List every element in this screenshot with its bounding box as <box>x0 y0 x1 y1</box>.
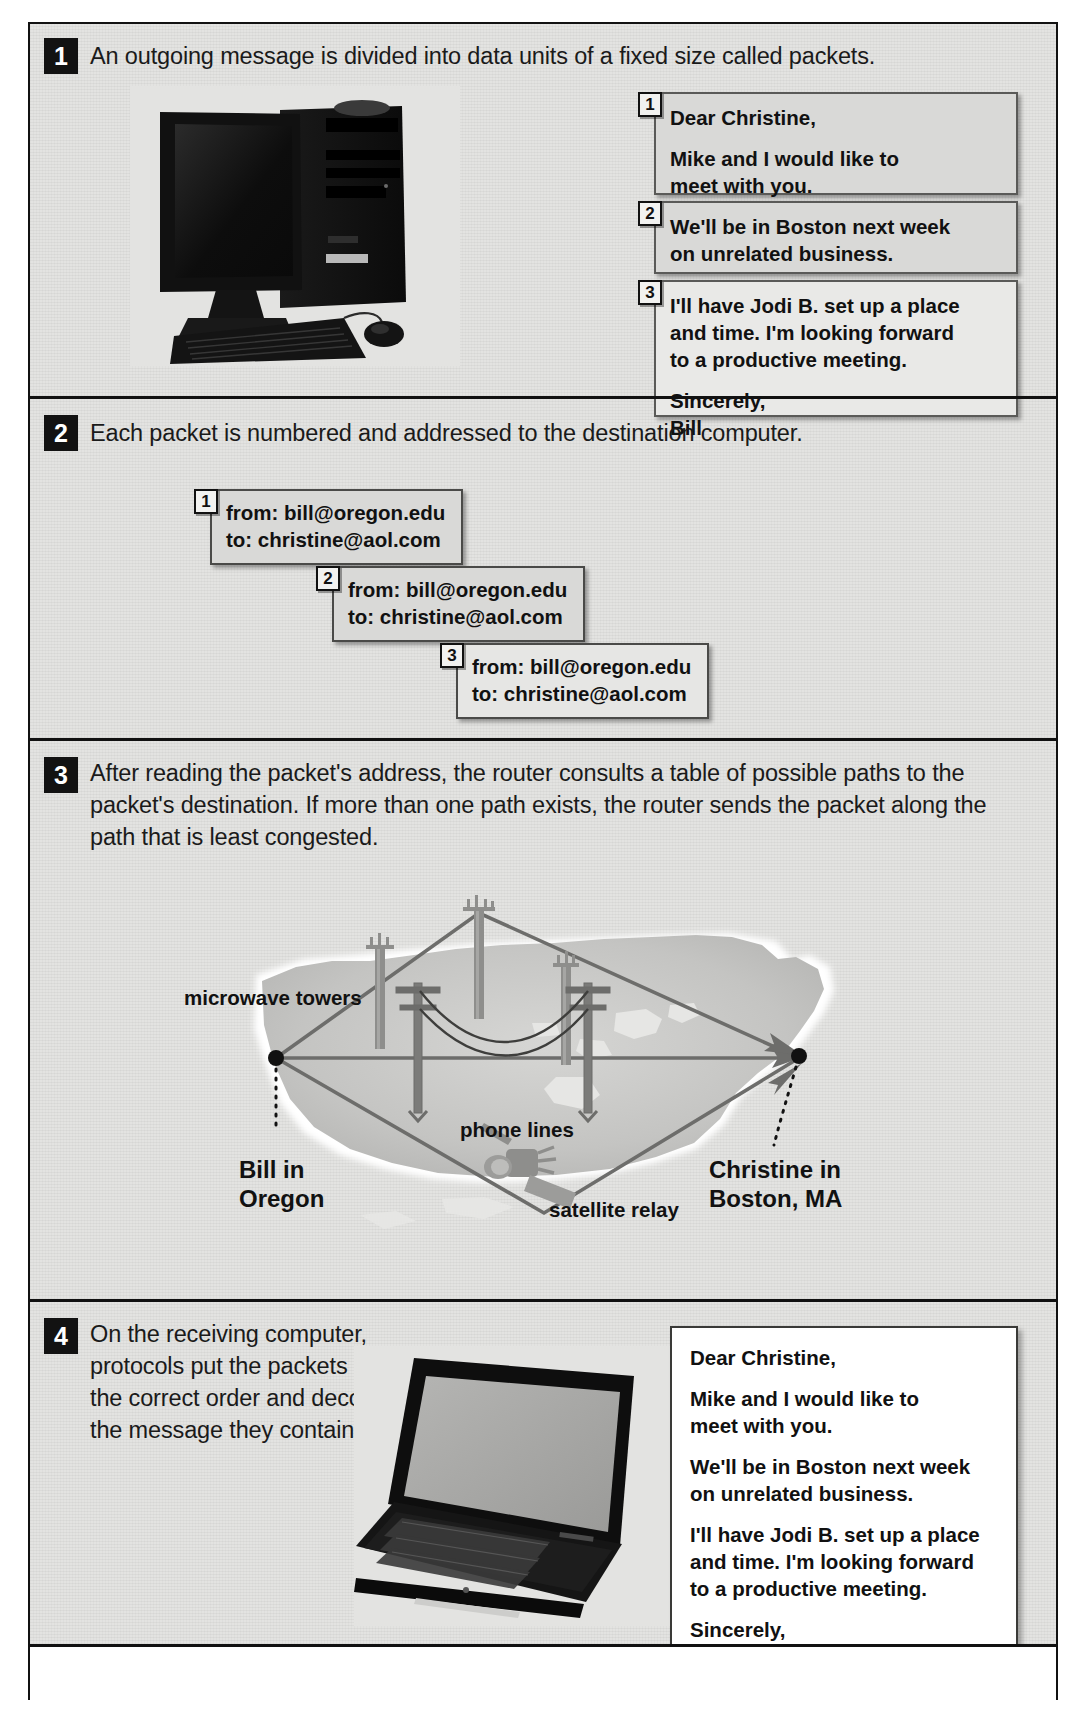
origin-node <box>268 1050 284 1066</box>
addressed-packet-2-number: 2 <box>316 566 340 591</box>
packet-3-line-2: and time. I'm looking forward <box>670 319 1004 346</box>
step-4: 4 On the receiving computer, protocols p… <box>30 1299 1056 1644</box>
step-2: 2 Each packet is numbered and addressed … <box>30 396 1056 738</box>
letter-para1-line1: Mike and I would like to <box>690 1385 1000 1412</box>
message-packet-1-body: Dear Christine, Mike and I would like to… <box>654 92 1018 195</box>
routing-map-diagram: microwave towers phone lines satellite r… <box>184 863 924 1278</box>
letter-para1-line2: meet with you. <box>690 1412 1000 1439</box>
map-label-microwave-towers: microwave towers <box>184 986 362 1010</box>
received-letter: Dear Christine, Mike and I would like to… <box>670 1326 1018 1690</box>
step-3: 3 After reading the packet's address, th… <box>30 738 1056 1299</box>
packet-3-line-1: I'll have Jodi B. set up a place <box>670 292 1004 319</box>
map-label-satellite-relay: satellite relay <box>549 1198 679 1222</box>
step-2-number: 2 <box>44 415 78 451</box>
step-3-text: After reading the packet's address, the … <box>90 757 1010 853</box>
packet-2-line-1: We'll be in Boston next week <box>670 213 1004 240</box>
figure-footer-strip <box>30 1644 1056 1700</box>
addressed-packet-3-body: from: bill@oregon.edu to: christine@aol.… <box>456 643 709 719</box>
letter-closing: Sincerely, <box>690 1616 1000 1643</box>
step-1: 1 An outgoing message is divided into da… <box>30 24 1056 396</box>
addressed-packet-3-number: 3 <box>440 643 464 668</box>
figure-page: 1 An outgoing message is divided into da… <box>0 0 1087 1721</box>
step-3-number: 3 <box>44 757 78 793</box>
map-label-origin-line1: Bill in <box>239 1155 324 1184</box>
packet-1-line-1: Dear Christine, <box>670 104 1004 131</box>
packet-1-line-3: meet with you. <box>670 172 1004 199</box>
addressed-packet-3-to: to: christine@aol.com <box>472 680 691 707</box>
addressed-packet-1-from: from: bill@oregon.edu <box>226 499 445 526</box>
map-label-origin-line2: Oregon <box>239 1184 324 1213</box>
letter-para3-line1: I'll have Jodi B. set up a place <box>690 1521 1000 1548</box>
packet-transmission-figure: 1 An outgoing message is divided into da… <box>28 22 1058 1700</box>
message-packet-stack: 1 Dear Christine, Mike and I would like … <box>638 92 1018 421</box>
step-1-text: An outgoing message is divided into data… <box>90 40 875 72</box>
addressed-packet-3-from: from: bill@oregon.edu <box>472 653 691 680</box>
desktop-computer-photo <box>130 86 460 366</box>
map-label-origin: Bill in Oregon <box>239 1155 324 1213</box>
map-label-destination-line1: Christine in <box>709 1155 842 1184</box>
addressed-packet-2-to: to: christine@aol.com <box>348 603 567 630</box>
letter-para3-line3: to a productive meeting. <box>690 1575 1000 1602</box>
addressed-packet-2: 2 from: bill@oregon.edu to: christine@ao… <box>316 566 585 642</box>
message-packet-2-body: We'll be in Boston next week on unrelate… <box>654 201 1018 274</box>
packet-1-line-2: Mike and I would like to <box>670 145 1004 172</box>
addressed-packet-1-body: from: bill@oregon.edu to: christine@aol.… <box>210 489 463 565</box>
addressed-packet-2-body: from: bill@oregon.edu to: christine@aol.… <box>332 566 585 642</box>
step-4-number: 4 <box>44 1318 78 1354</box>
map-label-phone-lines: phone lines <box>460 1118 574 1142</box>
message-packet-3-number: 3 <box>638 280 662 305</box>
addressed-packet-1-number: 1 <box>194 489 218 514</box>
step-2-text: Each packet is numbered and addressed to… <box>90 417 803 449</box>
addressed-packet-2-from: from: bill@oregon.edu <box>348 576 567 603</box>
map-label-destination-line2: Boston, MA <box>709 1184 842 1213</box>
message-packet-2: 2 We'll be in Boston next week on unrela… <box>638 201 1018 274</box>
map-label-destination: Christine in Boston, MA <box>709 1155 842 1213</box>
message-packet-1-number: 1 <box>638 92 662 117</box>
letter-greeting: Dear Christine, <box>690 1344 1000 1371</box>
laptop-computer-photo <box>354 1346 684 1626</box>
addressed-packet-1: 1 from: bill@oregon.edu to: christine@ao… <box>194 489 463 565</box>
destination-node <box>791 1048 807 1064</box>
letter-para2-line2: on unrelated business. <box>690 1480 1000 1507</box>
addressed-packet-3: 3 from: bill@oregon.edu to: christine@ao… <box>440 643 709 719</box>
addressed-packet-1-to: to: christine@aol.com <box>226 526 445 553</box>
step-1-number: 1 <box>44 38 78 74</box>
step-4-text: On the receiving computer, protocols put… <box>90 1318 390 1446</box>
letter-para3-line2: and time. I'm looking forward <box>690 1548 1000 1575</box>
packet-3-line-3: to a productive meeting. <box>670 346 1004 373</box>
message-packet-2-number: 2 <box>638 201 662 226</box>
message-packet-1: 1 Dear Christine, Mike and I would like … <box>638 92 1018 195</box>
letter-para2-line1: We'll be in Boston next week <box>690 1453 1000 1480</box>
packet-2-line-2: on unrelated business. <box>670 240 1004 267</box>
